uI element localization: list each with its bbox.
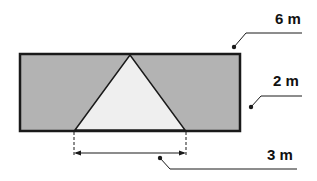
leader-line-width [234,33,302,47]
height-label: 2 m [273,72,299,89]
leader-line-height [251,96,302,107]
arrowhead-right-icon [179,151,186,156]
base-label: 3 m [267,146,293,163]
width-label: 6 m [275,10,301,27]
arrowhead-left-icon [74,151,81,156]
